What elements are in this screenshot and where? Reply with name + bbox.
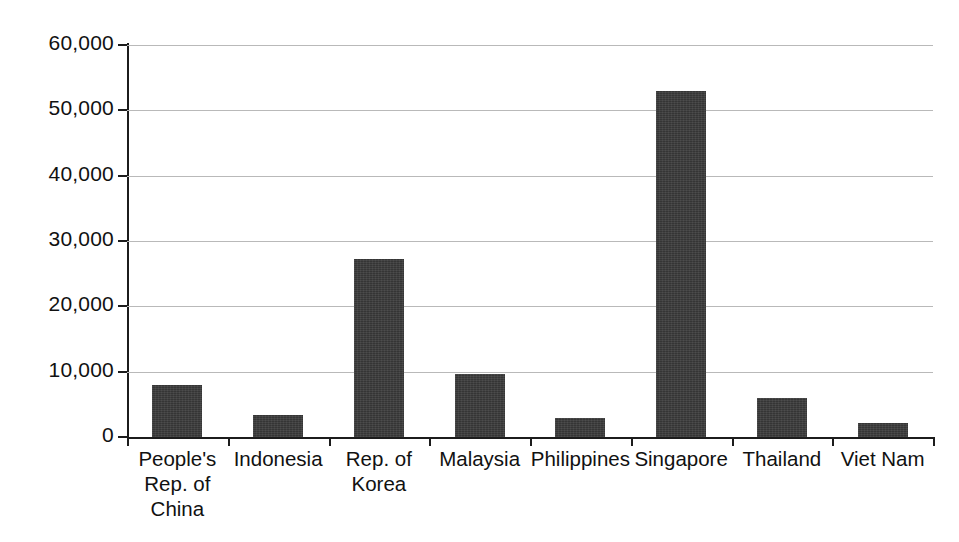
category-label-line: Indonesia <box>228 446 329 471</box>
y-axis-tick-mark <box>118 305 127 307</box>
x-axis-tick-mark <box>228 437 230 446</box>
bar <box>253 415 303 437</box>
gridline <box>127 241 933 242</box>
bar <box>455 374 505 437</box>
gridline <box>127 372 933 373</box>
x-axis-tick-mark <box>127 437 129 446</box>
category-label-line: Singapore <box>631 446 732 471</box>
x-axis-category-label: Philippines <box>530 446 631 471</box>
bar <box>757 398 807 437</box>
category-label-line: Philippines <box>530 446 631 471</box>
category-label-line: Rep. of <box>127 471 228 496</box>
y-axis-tick-label: 0 <box>102 423 114 447</box>
x-axis-tick-mark <box>933 437 935 446</box>
x-axis-tick-mark <box>329 437 331 446</box>
x-axis-tick-mark <box>832 437 834 446</box>
x-axis-category-label: Malaysia <box>429 446 530 471</box>
x-axis-tick-mark <box>631 437 633 446</box>
gridline <box>127 110 933 111</box>
bar <box>555 418 605 437</box>
y-axis-tick-label: 30,000 <box>49 227 114 251</box>
category-label-line: Korea <box>329 471 430 496</box>
x-axis-category-label: Rep. ofKorea <box>329 446 430 496</box>
y-axis-tick-label: 50,000 <box>49 96 114 120</box>
y-axis-tick-mark <box>118 44 127 46</box>
bar <box>656 91 706 437</box>
plot-area <box>127 45 933 437</box>
category-label-line: Rep. of <box>329 446 430 471</box>
y-axis-tick-mark <box>118 436 127 438</box>
bar <box>152 385 202 437</box>
x-axis-tick-mark <box>530 437 532 446</box>
category-label-line: Viet Nam <box>832 446 933 471</box>
y-axis-tick-mark <box>118 240 127 242</box>
y-axis-tick-label: 10,000 <box>49 358 114 382</box>
bar <box>354 259 404 437</box>
y-axis-tick-mark <box>118 109 127 111</box>
category-label-line: People's <box>127 446 228 471</box>
x-axis-tick-mark <box>732 437 734 446</box>
gridline <box>127 45 933 46</box>
x-axis-category-label: Singapore <box>631 446 732 471</box>
x-axis-category-label: Thailand <box>732 446 833 471</box>
gridline <box>127 176 933 177</box>
x-axis-category-label: People'sRep. ofChina <box>127 446 228 521</box>
category-label-line: China <box>127 496 228 521</box>
bar <box>858 423 908 437</box>
bar-chart: 010,00020,00030,00040,00050,00060,000 Pe… <box>0 0 959 542</box>
x-axis-category-label: Indonesia <box>228 446 329 471</box>
x-axis-tick-mark <box>429 437 431 446</box>
x-axis-category-label: Viet Nam <box>832 446 933 471</box>
category-label-line: Thailand <box>732 446 833 471</box>
y-axis-tick-label: 60,000 <box>49 31 114 55</box>
y-axis-tick-mark <box>118 175 127 177</box>
gridline <box>127 306 933 307</box>
y-axis-tick-label: 20,000 <box>49 292 114 316</box>
y-axis-tick-label: 40,000 <box>49 162 114 186</box>
y-axis-tick-mark <box>118 371 127 373</box>
category-label-line: Malaysia <box>429 446 530 471</box>
